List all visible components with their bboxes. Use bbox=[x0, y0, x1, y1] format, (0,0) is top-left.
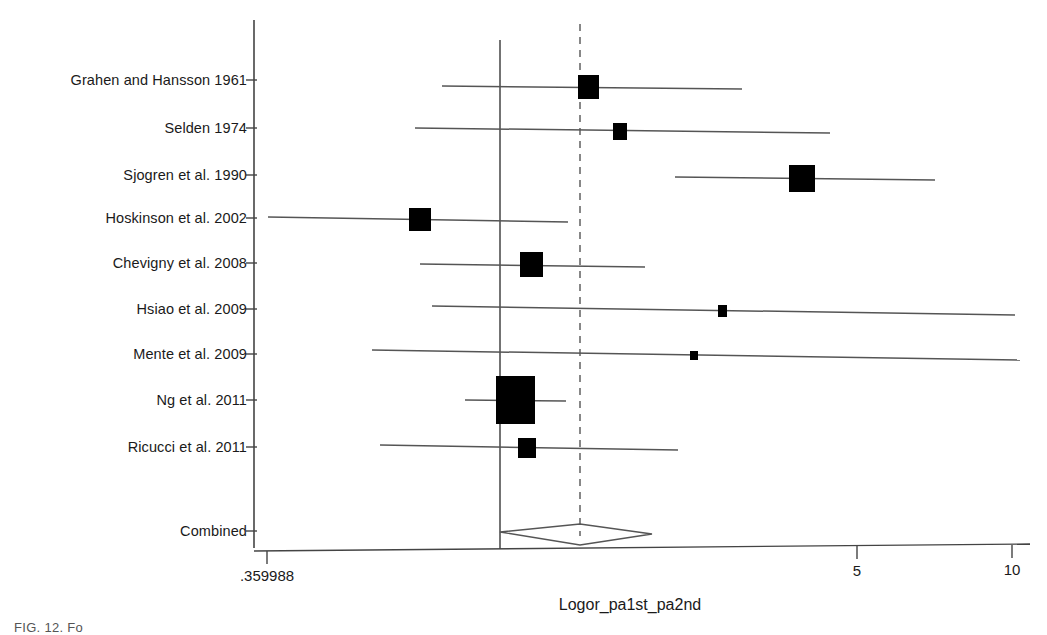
xtick-label-ten: 10 bbox=[1004, 561, 1021, 578]
combined-effect-diamond bbox=[500, 524, 652, 545]
axis-frame bbox=[254, 20, 1030, 551]
effect-marker-box bbox=[690, 351, 698, 360]
x-axis-title: Logor_pa1st_pa2nd bbox=[559, 596, 701, 614]
ylabel-hoskinson-et-al-2002: Hoskinson et al. 2002 bbox=[105, 210, 247, 226]
effect-marker-box bbox=[496, 376, 535, 424]
y-axis-ticks bbox=[246, 80, 257, 531]
effect-marker-box bbox=[520, 252, 543, 277]
study-rows bbox=[268, 75, 1020, 458]
xtick-label-low: .359988 bbox=[240, 567, 294, 584]
study-row-hoskinson-et-al-2002 bbox=[268, 208, 568, 231]
study-row-grahen-and-hansson-1961 bbox=[442, 75, 742, 99]
ylabel-sjogren-et-al-1990: Sjogren et al. 1990 bbox=[123, 167, 247, 183]
study-row-chevigny-et-al-2008 bbox=[420, 252, 645, 277]
study-row-selden-1974 bbox=[415, 123, 830, 140]
ylabel-ricucci-et-al-2011: Ricucci et al. 2011 bbox=[128, 439, 247, 455]
effect-marker-box bbox=[518, 438, 536, 458]
ylabel-grahen-and-hansson-1961: Grahen and Hansson 1961 bbox=[71, 72, 247, 88]
effect-marker-box bbox=[789, 165, 815, 192]
study-row-mente-et-al-2009 bbox=[372, 350, 1020, 360]
forest-plot-canvas bbox=[0, 0, 1047, 635]
ylabel-combined: Combined bbox=[180, 523, 247, 539]
effect-marker-box bbox=[613, 123, 627, 140]
effect-marker-box bbox=[409, 208, 431, 231]
study-row-hsiao-et-al-2009 bbox=[432, 305, 1015, 317]
effect-marker-box bbox=[578, 75, 599, 99]
figure-caption-fragment: FIG. 12. Fo bbox=[14, 620, 83, 635]
study-row-ricucci-et-al-2011 bbox=[380, 438, 678, 458]
ylabel-chevigny-et-al-2008: Chevigny et al. 2008 bbox=[113, 255, 247, 271]
ylabel-selden-1974: Selden 1974 bbox=[164, 120, 247, 136]
ylabel-mente-et-al-2009: Mente et al. 2009 bbox=[133, 346, 247, 362]
ylabel-ng-et-al-2011: Ng et al. 2011 bbox=[156, 392, 247, 408]
x-axis-baseline bbox=[254, 544, 1030, 551]
study-row-sjogren-et-al-1990 bbox=[675, 165, 935, 192]
ylabel-hsiao-et-al-2009: Hsiao et al. 2009 bbox=[136, 301, 247, 317]
effect-marker-box bbox=[718, 305, 727, 317]
xtick-label-five: 5 bbox=[853, 562, 861, 579]
study-row-ng-et-al-2011 bbox=[465, 376, 566, 424]
